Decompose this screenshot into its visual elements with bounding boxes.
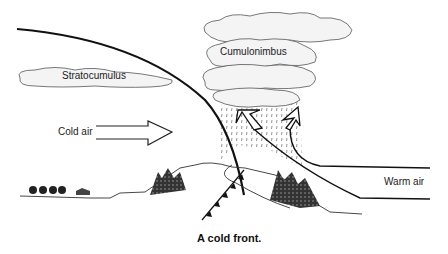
stratocumulus-label: Stratocumulus <box>62 70 126 81</box>
warm-air-label: Warm air <box>384 176 424 187</box>
cold-front-symbol <box>202 170 244 220</box>
diagram-caption: A cold front. <box>197 232 261 244</box>
forest-cluster-left <box>150 168 186 195</box>
cumulonimbus-cloud <box>203 12 352 107</box>
tree-group-left <box>29 186 66 194</box>
cumulonimbus-label: Cumulonimbus <box>220 46 287 57</box>
cold-air-arrow <box>96 121 172 145</box>
warm-air-upper-line <box>290 128 430 168</box>
cold-air-label: Cold air <box>58 126 92 137</box>
forest-cluster-right <box>270 170 320 208</box>
hut <box>76 188 90 195</box>
